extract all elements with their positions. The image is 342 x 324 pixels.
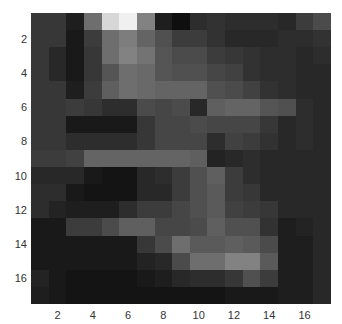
heatmap-cell xyxy=(296,133,314,150)
y-tick-label: 4 xyxy=(0,67,27,79)
heatmap-cell xyxy=(31,253,49,270)
heatmap-cell xyxy=(137,218,155,235)
heatmap-cell xyxy=(172,47,190,64)
heatmap-cell xyxy=(243,30,261,47)
heatmap-cell xyxy=(49,47,67,64)
heatmap-cell xyxy=(119,287,137,304)
heatmap-cell xyxy=(137,253,155,270)
heatmap-cell xyxy=(190,47,208,64)
heatmap-cell xyxy=(155,99,173,116)
heatmap-cell xyxy=(225,116,243,133)
heatmap-cell xyxy=(49,201,67,218)
heatmap-cell xyxy=(84,253,102,270)
heatmap-cell xyxy=(207,64,225,81)
heatmap-cell xyxy=(207,167,225,184)
heatmap-cell xyxy=(49,287,67,304)
heatmap-cell xyxy=(225,236,243,253)
heatmap-cell xyxy=(243,81,261,98)
heatmap-cell xyxy=(172,236,190,253)
heatmap-cell xyxy=(31,270,49,287)
x-tick-label: 10 xyxy=(193,309,205,321)
heatmap-cell xyxy=(313,167,331,184)
heatmap-cell xyxy=(313,99,331,116)
heatmap-cell xyxy=(155,64,173,81)
heatmap-cell xyxy=(119,236,137,253)
heatmap-cell xyxy=(119,64,137,81)
heatmap-cell xyxy=(225,167,243,184)
heatmap-cell xyxy=(190,270,208,287)
heatmap-cell xyxy=(313,133,331,150)
heatmap-cell xyxy=(296,184,314,201)
heatmap-cell xyxy=(137,30,155,47)
heatmap-cell xyxy=(260,81,278,98)
heatmap-cell xyxy=(313,236,331,253)
heatmap-cell xyxy=(84,64,102,81)
heatmap-cell xyxy=(207,201,225,218)
heatmap-cell xyxy=(225,253,243,270)
heatmap-cell xyxy=(313,201,331,218)
heatmap-cell xyxy=(190,30,208,47)
heatmap-cell xyxy=(260,167,278,184)
x-tick-label: 2 xyxy=(54,309,60,321)
heatmap-cell xyxy=(260,30,278,47)
heatmap-cell xyxy=(84,47,102,64)
heatmap-cell xyxy=(225,64,243,81)
heatmap-cell xyxy=(296,47,314,64)
heatmap-cell xyxy=(278,99,296,116)
heatmap-cell xyxy=(313,81,331,98)
heatmap-cell xyxy=(49,64,67,81)
heatmap-cell xyxy=(84,270,102,287)
heatmap-cell xyxy=(66,81,84,98)
heatmap-cell xyxy=(243,287,261,304)
heatmap-cell xyxy=(260,184,278,201)
heatmap-cell xyxy=(31,167,49,184)
y-tick-label: 16 xyxy=(0,272,27,284)
heatmap-cell xyxy=(260,133,278,150)
heatmap-cell xyxy=(296,81,314,98)
heatmap-cell xyxy=(49,167,67,184)
heatmap-cell xyxy=(137,99,155,116)
heatmap-cell xyxy=(155,236,173,253)
heatmap-cell xyxy=(207,116,225,133)
heatmap-cell xyxy=(296,253,314,270)
heatmap-cell xyxy=(119,13,137,30)
heatmap-cell xyxy=(31,30,49,47)
heatmap-cell xyxy=(172,13,190,30)
heatmap-cell xyxy=(225,47,243,64)
heatmap-cell xyxy=(119,253,137,270)
heatmap-cell xyxy=(84,30,102,47)
heatmap-cell xyxy=(102,13,120,30)
heatmap-cell xyxy=(137,287,155,304)
heatmap-cell xyxy=(313,218,331,235)
heatmap-cell xyxy=(260,64,278,81)
heatmap-cell xyxy=(66,133,84,150)
heatmap-cell xyxy=(313,64,331,81)
heatmap-cell xyxy=(155,133,173,150)
heatmap-cell xyxy=(172,81,190,98)
heatmap-cell xyxy=(207,30,225,47)
heatmap-cell xyxy=(155,218,173,235)
heatmap-cell xyxy=(278,13,296,30)
heatmap-cell xyxy=(207,287,225,304)
heatmap-cell xyxy=(260,270,278,287)
heatmap-cell xyxy=(296,218,314,235)
heatmap-cell xyxy=(278,47,296,64)
heatmap-cell xyxy=(84,184,102,201)
heatmap-cell xyxy=(207,133,225,150)
heatmap-cell xyxy=(119,81,137,98)
heatmap-cell xyxy=(296,287,314,304)
heatmap-cell xyxy=(296,64,314,81)
heatmap-cell xyxy=(172,99,190,116)
heatmap-cell xyxy=(313,30,331,47)
heatmap-cell xyxy=(313,287,331,304)
heatmap-cell xyxy=(172,218,190,235)
heatmap-cell xyxy=(278,116,296,133)
heatmap-cell xyxy=(207,236,225,253)
heatmap-cell xyxy=(31,13,49,30)
heatmap-cell xyxy=(155,253,173,270)
heatmap-cell xyxy=(296,150,314,167)
heatmap-cell xyxy=(102,184,120,201)
heatmap-cell xyxy=(207,218,225,235)
heatmap-cell xyxy=(102,201,120,218)
heatmap-cell xyxy=(207,253,225,270)
